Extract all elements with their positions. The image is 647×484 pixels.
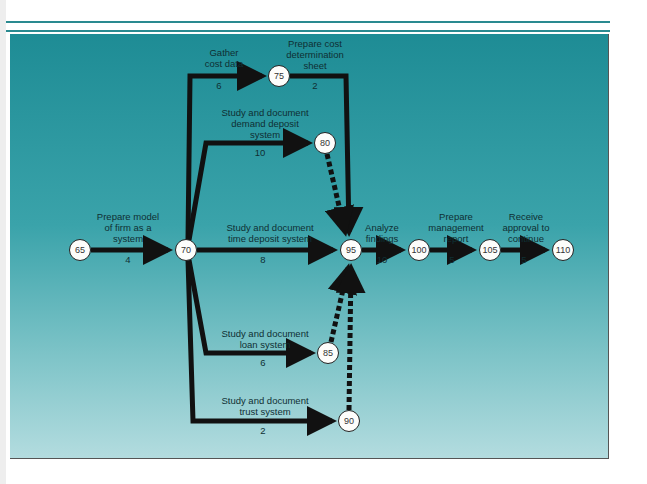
activity-duration-65-70: 4 xyxy=(118,254,138,265)
activity-duration-70-80: 10 xyxy=(250,147,270,158)
dummy-arrow-90-95 xyxy=(349,268,351,410)
arrow-70-75 xyxy=(188,76,262,240)
activity-label-100-105: Prepare management report xyxy=(424,211,488,244)
node-85: 85 xyxy=(317,342,339,364)
activity-label-105-110: Receive approval to continue xyxy=(496,211,556,244)
activity-duration-75-95: 2 xyxy=(305,80,325,91)
activity-label-70-75: Gather cost data xyxy=(194,47,254,69)
node-95: 95 xyxy=(340,239,362,261)
node-70: 70 xyxy=(175,239,197,261)
activity-duration-70-95: 8 xyxy=(253,254,273,265)
activity-label-75-95: Prepare cost determination sheet xyxy=(280,38,350,71)
activity-duration-70-85: 6 xyxy=(253,357,273,368)
activity-label-70-90: Study and document trust system xyxy=(210,395,320,417)
dummy-arrow-80-95 xyxy=(327,154,345,232)
activity-duration-100-105: 5 xyxy=(442,254,462,265)
activity-label-70-80: Study and document demand deposit system xyxy=(210,107,320,140)
activity-label-65-70: Prepare model of firm as a system xyxy=(88,211,168,244)
dummy-arrow-85-95 xyxy=(331,268,348,342)
activity-label-95-100: Analyze findings xyxy=(360,222,404,244)
activity-label-70-85: Study and document loan system xyxy=(210,328,320,350)
activity-duration-95-100: 10 xyxy=(372,254,392,265)
node-90: 90 xyxy=(338,410,360,432)
activity-duration-70-90: 2 xyxy=(253,425,273,436)
activity-duration-105-110: 5 xyxy=(514,254,534,265)
activity-duration-70-75: 6 xyxy=(209,80,229,91)
activity-label-70-95: Study and document time deposit system xyxy=(210,222,330,244)
